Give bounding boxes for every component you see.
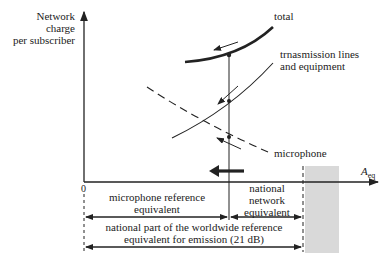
x-axis-label: Aeq: [361, 165, 375, 182]
dim-label-line: national: [232, 182, 302, 194]
x-label-sub: eq: [368, 171, 376, 180]
dim-label-line: network: [232, 194, 302, 206]
national-network-label: national network equivalent: [232, 182, 302, 218]
total-label: total: [274, 10, 294, 22]
total-direction-arrow: [214, 42, 238, 50]
y-axis-label: Network charge per subscriber: [0, 10, 75, 46]
y-label-line: charge: [0, 22, 75, 34]
microphone-label: microphone: [274, 147, 327, 159]
transmission-label-line: trnasmission lines: [280, 48, 359, 60]
microphone-ref-label: microphone reference equivalent: [86, 191, 228, 215]
national-part-label: national part of the worldwide reference…: [86, 221, 302, 245]
microphone-curve: [147, 87, 268, 152]
dim-label-line: equivalent: [232, 206, 302, 218]
dim-label-line: equivalent: [86, 203, 228, 215]
dim-label-line: equivalent for emission (21 dB): [86, 233, 302, 245]
y-label-line: Network: [0, 10, 75, 22]
shaded-region: [305, 166, 339, 253]
x-label-main: A: [361, 165, 368, 177]
y-label-line: per subscriber: [0, 34, 75, 46]
dim-label-line: microphone reference: [86, 191, 228, 203]
dim-label-line: national part of the worldwide reference: [86, 221, 302, 233]
transmission-label: trnasmission lines and equipment: [280, 48, 359, 72]
transmission-label-line: and equipment: [280, 60, 359, 72]
